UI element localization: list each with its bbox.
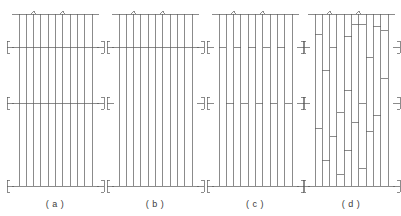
figure-background xyxy=(0,0,401,216)
panel-caption: ( d ) xyxy=(342,199,361,209)
panel-caption: ( a ) xyxy=(46,199,65,209)
panel-diagram-svg: ( a )( b )( c )( d ) xyxy=(0,0,401,216)
panel-caption: ( c ) xyxy=(246,199,264,209)
panel-caption: ( b ) xyxy=(146,199,165,209)
figure-root: ( a )( b )( c )( d ) xyxy=(0,0,401,216)
